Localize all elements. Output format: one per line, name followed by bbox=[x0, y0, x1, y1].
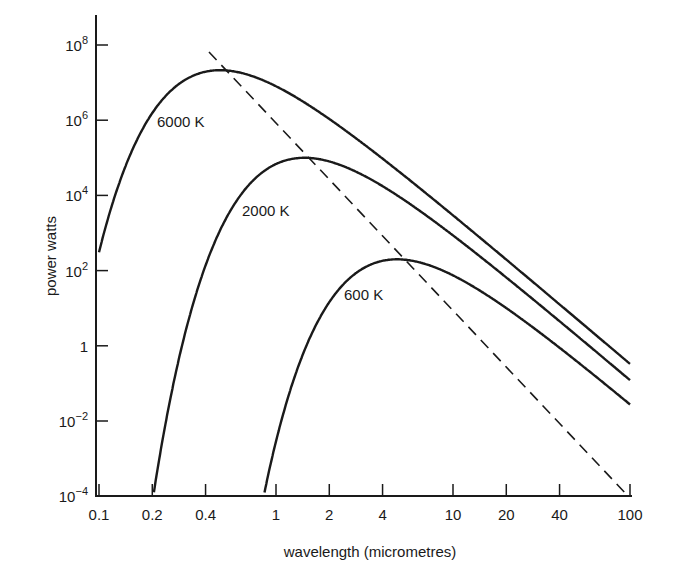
x-tick-label: 2 bbox=[325, 506, 333, 523]
x-ticks: 0.10.20.4124102040100 bbox=[89, 484, 643, 523]
x-axis-title: wavelength (micrometres) bbox=[283, 543, 457, 560]
y-tick-label: 1 bbox=[80, 338, 88, 355]
x-tick-label: 1 bbox=[272, 506, 280, 523]
x-tick-label: 0.1 bbox=[89, 506, 110, 523]
x-tick-label: 0.4 bbox=[195, 506, 216, 523]
x-tick-label: 20 bbox=[498, 506, 515, 523]
y-tick-label: 108 bbox=[65, 34, 88, 54]
curves bbox=[99, 70, 630, 492]
x-tick-label: 4 bbox=[378, 506, 386, 523]
y-ticks: 108106104102110−210−4 bbox=[59, 34, 108, 505]
y-axis-title: power watts bbox=[42, 216, 59, 296]
x-tick-label: 40 bbox=[551, 506, 568, 523]
x-tick-label: 100 bbox=[617, 506, 642, 523]
y-tick-label: 106 bbox=[65, 109, 88, 129]
curve-2000k bbox=[154, 158, 630, 492]
y-tick-label: 102 bbox=[65, 260, 88, 280]
curve-600k bbox=[265, 259, 631, 492]
curve-label-2000k: 2000 K bbox=[242, 202, 290, 219]
y-tick-label: 104 bbox=[65, 184, 88, 204]
curve-label-600k: 600 K bbox=[344, 286, 383, 303]
x-tick-label: 10 bbox=[445, 506, 462, 523]
y-tick-label: 10−2 bbox=[59, 410, 88, 430]
curve-label-6000k: 6000 K bbox=[157, 113, 205, 130]
x-tick-label: 0.2 bbox=[142, 506, 163, 523]
wien-dashed-line bbox=[209, 52, 628, 496]
blackbody-chart: 108106104102110−210−4 0.10.20.4124102040… bbox=[0, 0, 673, 578]
y-tick-label: 10−4 bbox=[59, 485, 88, 505]
